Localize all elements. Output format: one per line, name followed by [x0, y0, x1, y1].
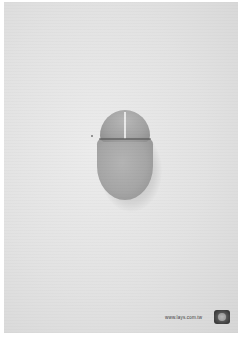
chip-mouse-button-divider — [124, 112, 126, 139]
chip-mouse-edge — [99, 138, 151, 140]
chip-mouse-image — [96, 110, 154, 202]
crumb — [91, 135, 93, 137]
lays-logo-icon — [214, 310, 230, 324]
logo-mark — [218, 313, 226, 321]
advertisement: www.lays.com.tw — [4, 2, 238, 333]
chip-mouse-body — [97, 138, 153, 200]
footer-url: www.lays.com.tw — [165, 315, 202, 320]
